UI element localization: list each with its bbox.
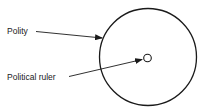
ruler-label: Political ruler xyxy=(7,72,56,82)
ruler-circle xyxy=(144,54,152,62)
polity-diagram: Polity Political ruler xyxy=(0,0,205,112)
polity-arrow xyxy=(36,32,102,39)
polity-label: Polity xyxy=(7,26,29,36)
ruler-arrow xyxy=(69,60,142,77)
